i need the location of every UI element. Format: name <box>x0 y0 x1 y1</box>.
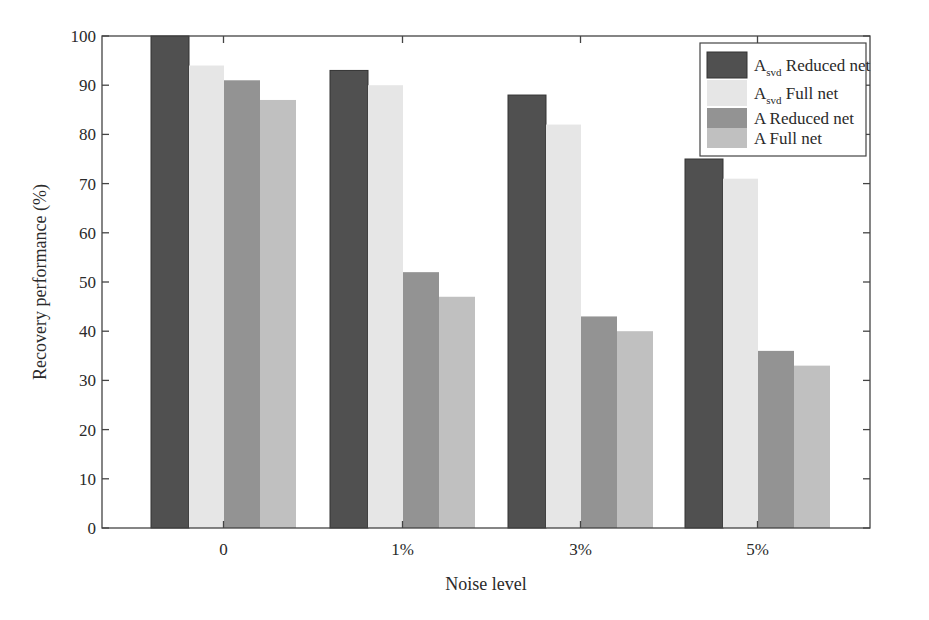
y-tick-label: 0 <box>88 519 97 538</box>
bar-0-1 <box>189 66 224 528</box>
bar-3%-2 <box>581 316 617 528</box>
bar-3%-3 <box>617 331 653 528</box>
x-axis-label: Noise level <box>445 574 526 594</box>
bar-5%-2 <box>758 351 794 528</box>
y-tick-label: 10 <box>79 470 96 489</box>
y-tick-label: 100 <box>71 27 97 46</box>
y-tick-label: 30 <box>79 371 96 390</box>
bar-5%-3 <box>794 366 830 528</box>
y-tick-label: 40 <box>79 322 96 341</box>
bar-5%-1 <box>723 179 758 528</box>
y-tick-label: 70 <box>79 175 96 194</box>
bar-3%-0 <box>508 95 546 528</box>
bar-3%-1 <box>546 125 581 528</box>
x-tick-label: 5% <box>746 540 769 559</box>
legend-swatch <box>707 52 747 78</box>
y-tick-label: 80 <box>79 125 96 144</box>
bar-1%-2 <box>403 272 439 528</box>
bar-1%-1 <box>368 85 403 528</box>
bar-5%-0 <box>685 159 723 528</box>
x-tick-label: 0 <box>219 540 228 559</box>
y-tick-label: 50 <box>79 273 96 292</box>
legend-label: A Reduced net <box>754 109 854 128</box>
y-tick-label: 20 <box>79 421 96 440</box>
y-tick-label: 90 <box>79 76 96 95</box>
legend-label: A Full net <box>754 129 822 148</box>
y-axis-label: Recovery performance (%) <box>30 184 51 380</box>
x-tick-label: 1% <box>391 540 414 559</box>
bar-0-0 <box>151 36 189 528</box>
legend-swatch <box>707 128 747 148</box>
bar-0-3 <box>260 100 296 528</box>
legend: Asvd Reduced netAsvd Full netA Reduced n… <box>700 43 871 156</box>
x-tick-label: 3% <box>569 540 592 559</box>
bar-chart: 0102030405060708090100 01%3%5% Noise lev… <box>0 0 929 620</box>
bar-1%-3 <box>439 297 475 528</box>
bar-0-2 <box>224 80 260 528</box>
legend-swatch <box>707 80 747 106</box>
y-tick-label: 60 <box>79 224 96 243</box>
bar-1%-0 <box>330 70 368 528</box>
legend-swatch <box>707 108 747 128</box>
